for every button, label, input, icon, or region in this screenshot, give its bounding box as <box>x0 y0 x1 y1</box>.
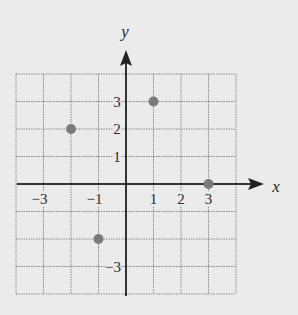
x-axis-label: x <box>272 178 280 195</box>
y-tick-label: −3 <box>105 259 121 274</box>
y-tick-label: 1 <box>113 149 121 164</box>
coordinate-plane <box>0 0 298 315</box>
x-tick-label: 3 <box>205 192 213 207</box>
data-point <box>204 179 214 189</box>
x-tick-label: 1 <box>150 192 158 207</box>
x-tick-label: 2 <box>177 192 185 207</box>
y-axis-label: y <box>121 23 129 40</box>
data-point <box>94 234 104 244</box>
y-tick-label: 3 <box>113 94 121 109</box>
axes <box>17 50 264 296</box>
x-tick-label: −3 <box>32 192 48 207</box>
data-point <box>149 97 159 107</box>
y-tick-label: 2 <box>113 122 121 137</box>
x-tick-label: −1 <box>87 192 103 207</box>
data-points <box>66 97 214 245</box>
data-point <box>66 124 76 134</box>
